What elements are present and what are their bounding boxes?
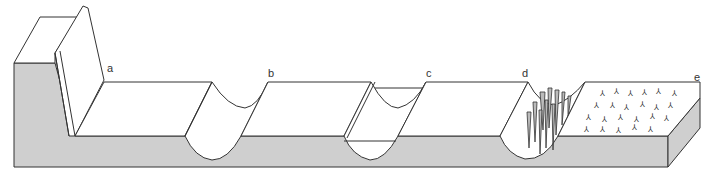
svg-text:⅄: ⅄ [653,103,659,112]
svg-text:⅄: ⅄ [585,113,591,122]
svg-text:⅄: ⅄ [609,101,615,110]
svg-text:⅄: ⅄ [599,125,605,134]
svg-text:⅄: ⅄ [613,87,619,96]
svg-text:⅄: ⅄ [655,87,661,96]
block-diagram: ⅄⅄⅄ ⅄⅄⅄ ⅄⅄⅄ ⅄⅄⅄ ⅄⅄⅄ ⅄⅄⅄ ⅄⅄⅄ ⅄⅄ a b c d e [0,0,713,182]
svg-text:⅄: ⅄ [627,89,633,98]
svg-text:⅄: ⅄ [649,112,655,121]
svg-text:⅄: ⅄ [583,125,589,134]
svg-text:⅄: ⅄ [639,100,645,109]
label-a: a [107,63,113,74]
diagram-drawing: ⅄⅄⅄ ⅄⅄⅄ ⅄⅄⅄ ⅄⅄⅄ ⅄⅄⅄ ⅄⅄⅄ ⅄⅄⅄ ⅄⅄ [0,0,713,182]
svg-text:⅄: ⅄ [601,115,607,124]
label-e: e [694,72,700,83]
svg-text:⅄: ⅄ [667,101,673,110]
svg-text:⅄: ⅄ [615,126,621,135]
svg-text:⅄: ⅄ [647,125,653,134]
svg-text:⅄: ⅄ [599,89,605,98]
svg-text:⅄: ⅄ [663,114,669,123]
label-d: d [522,68,528,79]
svg-text:⅄: ⅄ [593,101,599,110]
svg-text:⅄: ⅄ [617,113,623,122]
label-b: b [268,68,274,79]
svg-text:⅄: ⅄ [641,88,647,97]
label-c: c [426,68,432,79]
svg-text:⅄: ⅄ [623,103,629,112]
svg-text:⅄: ⅄ [671,89,677,98]
svg-text:⅄: ⅄ [631,123,637,132]
